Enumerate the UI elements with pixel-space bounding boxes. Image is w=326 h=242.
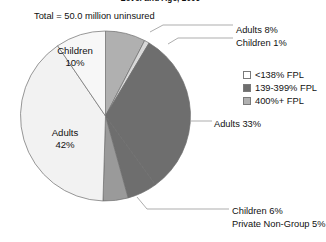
legend-swatch — [243, 84, 251, 92]
legend-swatch — [243, 97, 251, 105]
slice-label-adults-42-line2: 42% — [34, 139, 96, 151]
legend-label: <138% FPL — [255, 70, 304, 80]
callout-label-adults-33: Adults 33% — [214, 119, 261, 129]
slice-label-adults-42: Adults 42% — [34, 127, 96, 151]
legend-label: 139-399% FPL — [255, 83, 317, 93]
callout-label-private-non-group-5: Private Non-Group 5% — [232, 219, 326, 229]
legend-swatch — [243, 71, 251, 79]
legend-item: 139-399% FPL — [243, 81, 317, 94]
leader-line-adults-8 — [150, 25, 233, 32]
legend-item: 400%+ FPL — [243, 94, 317, 107]
leader-line-children-6 — [137, 197, 229, 209]
slice-label-children-10-line1: Children — [44, 45, 106, 57]
legend: <138% FPL139-399% FPL400%+ FPL — [243, 68, 317, 107]
callout-label-children-1: Children 1% — [236, 38, 287, 48]
callout-label-children-6: Children 6% — [232, 206, 283, 216]
slice-label-children-10: Children 10% — [44, 45, 106, 69]
legend-item: <138% FPL — [243, 68, 317, 81]
callout-label-adults-8: Adults 8% — [236, 25, 278, 35]
legend-label: 400%+ FPL — [255, 96, 304, 106]
slice-label-adults-42-line1: Adults — [34, 127, 96, 139]
leader-line-children-1 — [168, 38, 233, 44]
slice-label-children-10-line2: 10% — [44, 57, 106, 69]
